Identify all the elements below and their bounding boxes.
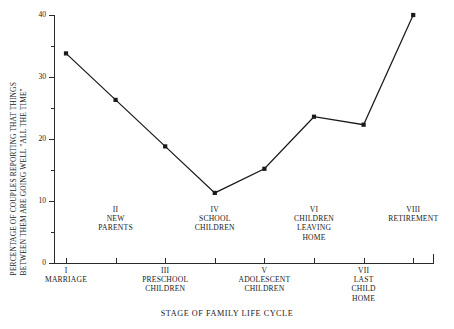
x-tick-7 <box>413 258 414 264</box>
y-tick-20 <box>49 139 55 140</box>
y-tick-label: 30 <box>30 73 46 81</box>
data-point-marker <box>411 13 415 17</box>
x-stage-label-viii: VIII RETIREMENT <box>370 205 454 223</box>
data-point-marker <box>213 191 217 195</box>
data-point-marker <box>262 167 266 171</box>
x-axis-title: STAGE OF FAMILY LIFE CYCLE <box>0 309 454 318</box>
data-point-marker <box>312 115 316 119</box>
x-tick-0 <box>66 258 67 264</box>
x-tick-6 <box>364 258 365 264</box>
y-tick-minor-5 <box>51 232 55 233</box>
x-stage-label-iv: IV SCHOOL CHILDREN <box>172 205 258 233</box>
x-axis-end-cap-1 <box>433 254 434 264</box>
y-tick-30 <box>49 77 55 78</box>
y-tick-10 <box>49 201 55 202</box>
y-tick-label: 40 <box>30 11 46 19</box>
x-stage-label-ii: II NEW PARENTS <box>73 205 159 233</box>
y-tick-label: 20 <box>30 135 46 143</box>
data-markers <box>64 13 415 195</box>
data-line <box>66 15 413 193</box>
x-stage-label-i: I MARRIAGE <box>23 266 109 284</box>
chart-figure: PERCENTAGE OF COUPLES REPORTING THAT THI… <box>0 0 454 329</box>
y-tick-40 <box>49 15 55 16</box>
y-tick-minor-35 <box>51 46 55 47</box>
y-tick-minor-25 <box>51 108 55 109</box>
y-tick-label: 10 <box>30 197 46 205</box>
x-tick-5 <box>314 258 315 264</box>
y-tick-minor-15 <box>51 170 55 171</box>
data-point-marker <box>114 98 118 102</box>
x-stage-label-v: V ADOLESCENT CHILDREN <box>221 266 307 294</box>
x-stage-label-vi: VI CHILDREN LEAVING HOME <box>271 205 357 242</box>
x-tick-2 <box>165 258 166 264</box>
data-point-marker <box>362 123 366 127</box>
x-tick-3 <box>215 258 216 264</box>
data-point-marker <box>163 144 167 148</box>
x-tick-4 <box>264 258 265 264</box>
x-axis-line <box>54 263 433 264</box>
data-point-marker <box>64 51 68 55</box>
x-stage-label-vii: VII LAST CHILD HOME <box>321 266 407 303</box>
x-axis-end-cap-0 <box>54 254 55 264</box>
y-axis-title-line-1: PERCENTAGE OF COUPLES REPORTING THAT THI… <box>10 82 17 275</box>
x-stage-label-iii: III PRESCHOOL CHILDREN <box>122 266 208 294</box>
y-axis-title-line-2: BETWEEN THEM ARE GOING WELL "ALL THE TIM… <box>20 88 27 275</box>
x-tick-1 <box>116 258 117 264</box>
